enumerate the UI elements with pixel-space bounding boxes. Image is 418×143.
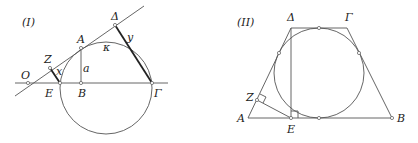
segment-y: [115, 25, 152, 83]
label-a: a: [83, 62, 90, 75]
label-E: E: [44, 87, 53, 100]
label-B: B: [77, 87, 86, 100]
tangent-point-right: [357, 51, 360, 54]
label-y: y: [126, 31, 134, 44]
trapezoid: [248, 28, 392, 118]
tangent-point-left: [277, 51, 280, 54]
label-Gamma: Γ: [344, 11, 353, 24]
point-Delta: [113, 23, 116, 26]
label-O: O: [21, 69, 30, 82]
figure-2: (II) Δ Γ A B E Z: [236, 11, 405, 136]
label-B: B: [396, 112, 405, 125]
inscribed-circle: [274, 28, 364, 118]
label-x: x: [56, 65, 63, 78]
tangent-point-top: [317, 26, 320, 29]
circle-kappa: [60, 42, 152, 134]
point-Gamma: [150, 81, 153, 84]
label-A: A: [76, 33, 85, 46]
figure-1-title: (I): [22, 16, 35, 29]
label-kappa: κ: [102, 41, 111, 54]
point-E: [58, 81, 61, 84]
point-Z: [255, 98, 258, 101]
geometry-figures: (I) O E B Γ A Δ Z x y a κ (II): [0, 0, 418, 143]
point-Z: [48, 66, 51, 69]
label-A: A: [236, 112, 245, 125]
point-A: [79, 46, 82, 49]
label-E: E: [286, 123, 295, 136]
label-Gamma: Γ: [153, 87, 162, 100]
label-Z: Z: [245, 91, 254, 104]
tangent-point-bottom: [317, 116, 320, 119]
figure-1: (I) O E B Γ A Δ Z x y a κ: [15, 6, 168, 134]
label-Z: Z: [43, 53, 52, 66]
label-Delta: Δ: [110, 10, 119, 23]
point-B: [79, 81, 82, 84]
point-E: [289, 116, 292, 119]
segment-EZ: [257, 100, 291, 118]
label-Delta: Δ: [286, 11, 295, 24]
figure-2-title: (II): [237, 16, 254, 29]
point-B: [390, 116, 393, 119]
